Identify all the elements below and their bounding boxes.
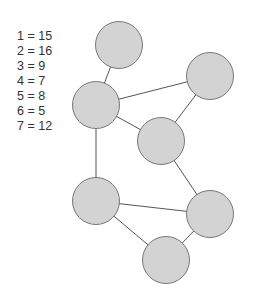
- node-lower-right: [187, 191, 234, 238]
- node-left-mid: [73, 82, 120, 129]
- node-center: [138, 118, 185, 165]
- node-lower-left: [73, 178, 120, 225]
- graph-diagram: [0, 0, 255, 297]
- node-right-top: [187, 53, 234, 100]
- graph-nodes: [73, 22, 234, 284]
- node-top: [96, 22, 143, 69]
- node-bottom: [143, 237, 190, 284]
